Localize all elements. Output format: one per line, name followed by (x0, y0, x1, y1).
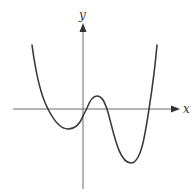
function-graph: x y (0, 0, 195, 196)
y-axis-arrow-icon (80, 23, 87, 32)
function-curve (32, 45, 157, 163)
y-axis-label: y (78, 8, 86, 22)
x-axis-label: x (183, 102, 190, 116)
x-axis-arrow-icon (171, 106, 180, 113)
graph-canvas: x y (0, 0, 195, 196)
